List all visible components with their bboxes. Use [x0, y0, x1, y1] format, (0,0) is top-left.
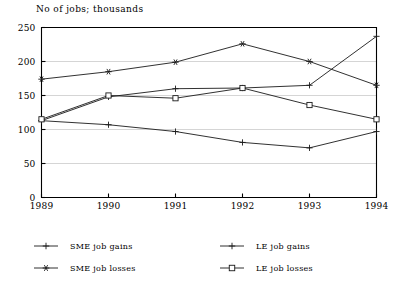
- x-tick-label: 1991: [164, 201, 188, 211]
- data-point-square-marker: [374, 117, 379, 122]
- data-point-plus-marker: [306, 145, 312, 151]
- y-tick-label: 200: [18, 57, 36, 67]
- x-tick-label: 1992: [231, 201, 255, 211]
- data-point-plus-marker: [43, 243, 50, 250]
- legend-entry-le-job-gains: LE job gains: [220, 242, 310, 251]
- y-tick-label: 50: [24, 159, 36, 169]
- data-point-asterisk-marker: [239, 41, 245, 47]
- series-sme-job-losses: [38, 41, 379, 88]
- legend-label: SME job gains: [70, 242, 133, 251]
- y-tick-label: 100: [18, 125, 36, 135]
- x-axis-tick-labels: 198919901991199219931994: [30, 201, 389, 211]
- x-tick-label: 1989: [30, 201, 54, 211]
- chart-figure: No of jobs; thousands 050100150200250 19…: [0, 0, 412, 290]
- data-point-asterisk-marker: [43, 265, 50, 271]
- data-point-square-marker: [229, 265, 234, 270]
- data-point-plus-marker: [239, 139, 245, 145]
- x-tick-label: 1990: [97, 201, 121, 211]
- chart-canvas: 050100150200250 198919901991199219931994…: [0, 0, 412, 290]
- gridlines-group: [42, 62, 377, 164]
- x-tick-label: 1993: [298, 201, 322, 211]
- legend-entry-sme-job-losses: SME job losses: [34, 264, 136, 273]
- legend-label: SME job losses: [70, 264, 136, 273]
- legend-entry-sme-job-gains: SME job gains: [34, 242, 133, 251]
- data-point-square-marker: [240, 85, 245, 90]
- data-point-plus-marker: [306, 82, 312, 88]
- data-series-group: [38, 33, 379, 151]
- legend-label: LE job losses: [256, 264, 313, 273]
- data-point-plus-marker: [172, 86, 178, 92]
- data-point-square-marker: [307, 102, 312, 107]
- data-point-square-marker: [39, 117, 44, 122]
- data-point-asterisk-marker: [105, 69, 111, 75]
- data-point-asterisk-marker: [306, 59, 312, 65]
- y-tick-label: 150: [18, 91, 36, 101]
- data-point-asterisk-marker: [172, 59, 178, 65]
- series-sme-job-gains: [38, 33, 379, 124]
- series-le-job-gains: [38, 118, 379, 151]
- y-tick-label: 250: [18, 23, 36, 33]
- data-point-plus-marker: [105, 122, 111, 128]
- x-tick-label: 1994: [365, 201, 389, 211]
- data-point-square-marker: [106, 93, 111, 98]
- legend-entry-le-job-losses: LE job losses: [220, 264, 313, 273]
- chart-title: No of jobs; thousands: [36, 4, 143, 14]
- y-axis-tick-labels: 050100150200250: [18, 23, 36, 203]
- data-point-plus-marker: [373, 33, 379, 39]
- chart-legend: SME job gainsLE job gainsSME job lossesL…: [34, 242, 313, 273]
- legend-label: LE job gains: [256, 242, 310, 251]
- data-point-square-marker: [173, 96, 178, 101]
- data-point-plus-marker: [229, 243, 236, 250]
